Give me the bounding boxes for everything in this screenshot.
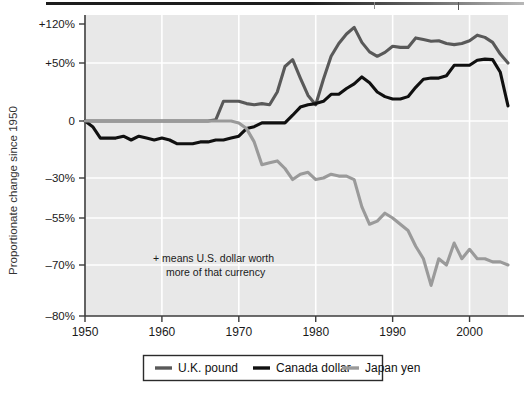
legend-label-uk-pound: U.K. pound	[178, 361, 238, 375]
y-axis-tick-label: 0	[69, 115, 75, 127]
legend-label-canada-dollar: Canada dollar	[276, 361, 351, 375]
plot-area-background	[85, 15, 508, 316]
annotation-line-2: more of that currency	[166, 266, 266, 278]
y-axis: +120%+50%0–30%–55%–70%–80%	[39, 15, 85, 322]
y-axis-title: Proportionate change since 1950	[7, 106, 19, 275]
legend-label-japan-yen: Japan yen	[365, 361, 420, 375]
x-axis-tick-label: 1980	[302, 325, 329, 339]
y-axis-tick-label: –55%	[46, 212, 75, 224]
annotation-line-1: + means U.S. dollar worth	[153, 252, 274, 264]
y-axis-tick-label: –80%	[46, 310, 75, 322]
x-axis-tick-label: 2000	[456, 325, 483, 339]
y-axis-tick-label: +120%	[39, 18, 75, 30]
x-axis: 195019601970198019902000	[72, 316, 524, 339]
x-axis-tick-label: 1990	[379, 325, 406, 339]
y-axis-tick-label: –30%	[46, 172, 75, 184]
legend-entries: U.K. poundCanada dollarJapan yen	[155, 361, 420, 375]
x-axis-tick-label: 1950	[72, 325, 99, 339]
currency-change-line-chart: +120%+50%0–30%–55%–70%–80% 1950196019701…	[0, 0, 524, 397]
y-axis-tick-label: +50%	[45, 57, 75, 69]
x-axis-tick-label: 1960	[149, 325, 176, 339]
x-axis-tick-label: 1970	[225, 325, 252, 339]
y-axis-tick-label: –70%	[46, 259, 75, 271]
